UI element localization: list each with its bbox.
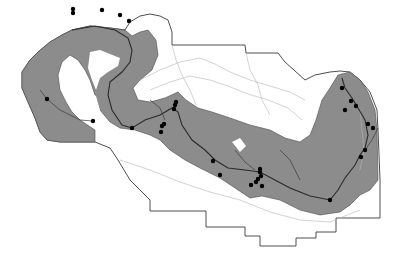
sample-point (45, 97, 49, 101)
sample-point (91, 119, 95, 123)
sample-point (359, 155, 363, 159)
sample-point (71, 11, 75, 15)
sample-point (174, 100, 178, 104)
sample-point (258, 170, 262, 174)
sample-point (340, 86, 344, 90)
sample-point (366, 122, 370, 126)
sample-point (363, 148, 367, 152)
sample-point (354, 104, 358, 108)
sample-point (371, 126, 375, 130)
sample-point (162, 122, 166, 126)
sample-point (100, 8, 104, 12)
sample-point (249, 183, 253, 187)
sample-point (71, 7, 75, 11)
sample-point (328, 198, 332, 202)
sample-point (218, 173, 222, 177)
sample-point (211, 159, 215, 163)
sample-point (159, 130, 163, 134)
sample-point (343, 108, 347, 112)
sample-point (349, 99, 353, 103)
sample-point (130, 126, 134, 130)
sample-point (172, 107, 176, 111)
sample-point (260, 184, 264, 188)
sample-point (118, 13, 122, 17)
map-canvas (0, 0, 397, 253)
sample-point (127, 19, 131, 23)
sample-point (256, 177, 260, 181)
